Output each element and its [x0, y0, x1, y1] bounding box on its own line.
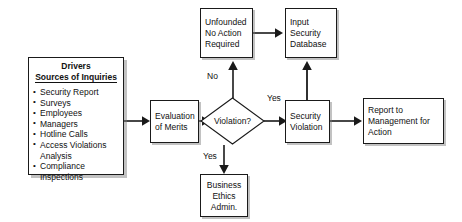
- list-item: Managers: [33, 119, 121, 130]
- node-security-violation-label: Security Violation: [286, 111, 329, 133]
- node-unfounded-label: Unfounded No Action Required: [201, 17, 252, 50]
- list-item: Employees: [33, 108, 121, 119]
- flowchart-canvas: No Yes Yes Drivers Sources of Inquiries …: [0, 0, 462, 222]
- node-evaluation-label: Evaluation of Merits: [151, 111, 198, 133]
- edge-decision-to-business-ethics: [217, 145, 231, 177]
- node-report-to-management: Report to Management for Action: [363, 98, 444, 144]
- node-report-label: Report to Management for Action: [364, 105, 443, 138]
- drivers-heading-line1: Drivers: [29, 61, 123, 72]
- list-item: Security Report: [33, 87, 121, 98]
- edge-label-no: No: [207, 71, 218, 81]
- edge-unfounded-to-input-database: [253, 26, 289, 40]
- drivers-heading-line2: Sources of Inquiries: [35, 72, 117, 84]
- node-evaluation-of-merits: Evaluation of Merits: [150, 100, 199, 143]
- drivers-heading: Drivers Sources of Inquiries: [29, 58, 123, 83]
- list-item: Surveys: [33, 98, 121, 109]
- node-business-ethics-admin: Business Ethics Admin.: [200, 174, 248, 217]
- node-business-ethics-label: Business Ethics Admin.: [201, 179, 247, 212]
- node-violation-decision-label: Violation?: [200, 116, 265, 126]
- node-input-security-database: Input Security Database: [285, 8, 337, 58]
- node-drivers-sources-of-inquiries: Drivers Sources of Inquiries Security Re…: [28, 57, 124, 175]
- drivers-list: Security Report Surveys Employees Manage…: [29, 87, 123, 182]
- edge-label-yes-down: Yes: [203, 151, 217, 161]
- node-input-database-label: Input Security Database: [286, 17, 336, 50]
- edge-decision-to-unfounded: [226, 58, 240, 100]
- node-security-violation: Security Violation: [285, 100, 330, 143]
- list-item: Compliance Inspections: [33, 161, 121, 182]
- edge-label-yes-right: Yes: [267, 93, 281, 103]
- node-violation-decision: Violation?: [200, 97, 265, 145]
- list-item: Hotline Calls: [33, 129, 121, 140]
- node-unfounded-no-action-required: Unfounded No Action Required: [200, 8, 253, 58]
- list-item: Access Violations Analysis: [33, 140, 121, 161]
- edge-security-violation-to-input-database: [300, 58, 314, 102]
